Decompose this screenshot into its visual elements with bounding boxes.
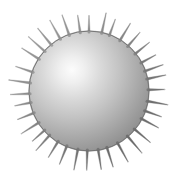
spike-base-knob (29, 92, 32, 95)
spike-tip (77, 15, 78, 16)
spike-tip (141, 152, 142, 153)
spike-base-knob (43, 129, 46, 132)
spike-base-knob (38, 121, 41, 124)
spike-base-knob (146, 88, 149, 91)
spike-base-knob (118, 39, 121, 42)
spike-base-knob (65, 144, 68, 147)
spike-base-knob (116, 141, 119, 144)
spike-tip (73, 169, 74, 170)
spike-tip (164, 89, 165, 90)
spike-base-knob (29, 81, 32, 84)
spike-tip (101, 169, 102, 170)
spike-tip (127, 161, 128, 162)
spike-base-knob (50, 44, 53, 47)
spike-base-knob (88, 31, 91, 34)
spike-tip (37, 28, 38, 29)
spike-base-knob (108, 34, 111, 37)
spike-base-knob (68, 34, 71, 37)
spike-base-knob (143, 70, 146, 73)
spike-tip (162, 64, 163, 65)
spike-tip (48, 157, 49, 158)
spike-tip (17, 119, 18, 120)
spike-tip (150, 142, 151, 143)
spike-tip (155, 54, 156, 55)
spike-tip (167, 104, 168, 105)
spike-tip (35, 150, 36, 151)
spike-base-knob (97, 148, 100, 151)
spike-base-knob (30, 101, 33, 104)
spike-base-knob (79, 31, 82, 34)
spike-tip (14, 105, 15, 106)
spike-tip (165, 74, 166, 75)
spike-tip (158, 127, 159, 128)
spike-tip (115, 19, 116, 20)
spike-base-knob (48, 134, 51, 137)
spike-base-knob (86, 148, 89, 151)
spike-base-knob (146, 100, 149, 103)
spike-tip (8, 79, 9, 80)
spike-base-knob (33, 111, 36, 114)
sphere-surface (29, 31, 149, 151)
spike-base-knob (126, 45, 129, 48)
spike-tip (130, 23, 131, 24)
spike-tip (105, 12, 106, 13)
spike-base-knob (44, 50, 47, 53)
spike-base-knob (105, 146, 108, 149)
spike-base-knob (32, 71, 35, 74)
spike-base-knob (59, 38, 62, 41)
spike-tip (88, 15, 89, 16)
spike-tip (139, 32, 140, 33)
spike-tip (21, 133, 22, 134)
spike-tip (149, 42, 150, 43)
spike-tip (112, 166, 113, 167)
spike-base-knob (139, 61, 142, 64)
spike-base-knob (133, 127, 136, 130)
spike-tip (49, 20, 50, 21)
spike-tip (28, 36, 29, 37)
spike-tip (61, 14, 62, 15)
sphere-body (29, 31, 149, 151)
spike-base-knob (57, 140, 60, 143)
spike-base-knob (76, 147, 79, 150)
spike-tip (86, 169, 87, 170)
spike-base-knob (140, 117, 143, 120)
render-canvas (0, 0, 179, 184)
spike-tip (10, 94, 11, 95)
spiked-sphere-illustration (0, 0, 179, 184)
spike-tip (15, 66, 16, 67)
spike-base-knob (143, 109, 146, 112)
spike-tip (161, 116, 162, 117)
spike-tip (21, 48, 22, 49)
spike-base-knob (100, 32, 103, 35)
spike-base-knob (126, 134, 129, 137)
spike-tip (59, 163, 60, 164)
spike-base-knob (133, 53, 136, 56)
spike-base-knob (38, 58, 41, 61)
spike-tip (32, 140, 33, 141)
spike-base-knob (145, 78, 148, 81)
